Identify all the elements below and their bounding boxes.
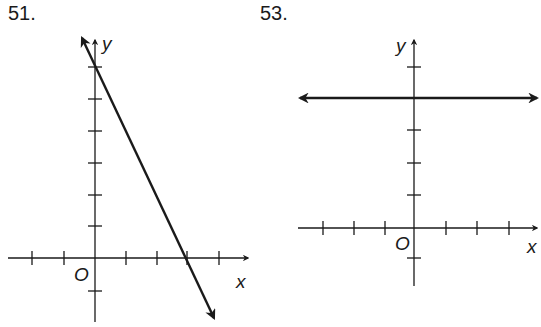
y-axis [88,40,102,322]
graph-53: y x O [298,35,538,286]
graphs-canvas: y x O y [0,0,541,327]
y-axis-label: y [100,33,113,54]
x-axis-label: x [526,236,538,257]
graph-51: y x O [8,33,248,322]
origin-label: O [74,264,89,285]
y-axis-label: y [394,35,407,56]
plotted-line [82,38,214,318]
origin-label: O [395,233,410,254]
x-axis-label: x [235,271,247,292]
x-axis [298,221,537,235]
x-axis [8,251,248,265]
